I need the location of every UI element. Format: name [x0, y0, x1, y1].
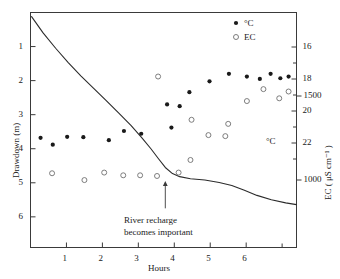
- y-tick-label-4: 4: [19, 144, 24, 153]
- x-tick-label-5: 5: [206, 254, 211, 263]
- plot-frame: [31, 13, 297, 248]
- x-tick-label-3: 3: [134, 254, 139, 263]
- y-axis-ticks: [31, 47, 36, 217]
- legend-label-ec: EC: [244, 33, 256, 42]
- temp-tick-label-16: 16: [303, 42, 312, 51]
- temp-tick-label-22: 22: [303, 138, 312, 147]
- axes-frame: [31, 13, 297, 248]
- x-tick-label-1: 1: [62, 254, 67, 263]
- x-axis-ticks: [66, 243, 282, 248]
- annotation-arrow: [163, 181, 168, 208]
- ec-tick-label-1500: 1500: [304, 91, 322, 100]
- x-axis-title: Hours: [148, 264, 170, 273]
- x-tick-label-6: 6: [242, 254, 247, 263]
- y-tick-label-2: 2: [19, 76, 24, 85]
- ec-tick-label-1000: 1000: [304, 175, 322, 184]
- temperature-points: [38, 72, 290, 147]
- y-tick-label-1: 1: [19, 42, 24, 51]
- x-tick-label-2: 2: [98, 254, 103, 263]
- y-tick-label-3: 3: [19, 110, 24, 119]
- temp-tick-label-18: 18: [303, 74, 312, 83]
- legend-markers: [234, 21, 239, 40]
- y-tick-label-6: 6: [19, 212, 24, 221]
- x-tick-label-4: 4: [170, 254, 175, 263]
- temp-tick-label-20: 20: [303, 106, 312, 115]
- annotation-line-1: River recharge: [124, 215, 177, 226]
- annotation-line-2: becomes important: [124, 227, 193, 238]
- y-tick-label-5: 5: [19, 178, 24, 187]
- secondary-y-axis-title-ec: EC ( μS cm⁻¹ ): [324, 145, 333, 200]
- drawdown-curve: [32, 17, 297, 205]
- temperature-unit-label: °C: [266, 137, 276, 146]
- figure-container: Drawdown (m) Hours EC ( μS cm⁻¹ ) °C °C …: [0, 0, 340, 279]
- legend-label-temperature: °C: [244, 19, 254, 28]
